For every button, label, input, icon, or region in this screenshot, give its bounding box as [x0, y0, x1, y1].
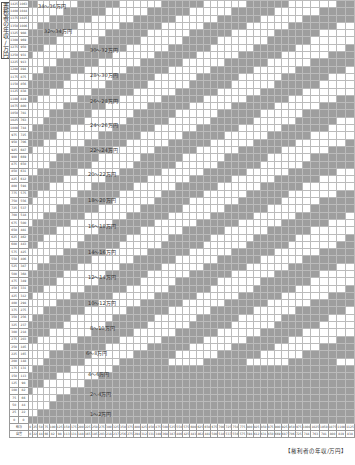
grid-cell: [267, 205, 274, 212]
grid-cell: [246, 183, 253, 190]
grid-cell: [70, 161, 77, 168]
grid-cell: [232, 88, 239, 95]
grid-cell: [337, 241, 346, 248]
grid-cell: [148, 154, 155, 161]
grid-cell: [311, 139, 320, 146]
grid-cell: [169, 336, 176, 343]
grid-cell: [91, 205, 98, 212]
grid-cell: [204, 336, 211, 343]
grid-cell: [246, 300, 253, 307]
grid-cell: [190, 88, 197, 95]
grid-cell: [126, 59, 133, 66]
grid-cell: [204, 322, 211, 329]
grid-cell: [126, 190, 133, 197]
grid-cell: [320, 227, 329, 234]
grid-cell: [56, 314, 63, 321]
grid-cell: [141, 37, 148, 44]
grid-cell: [197, 249, 204, 256]
x-tick: 800: [246, 424, 253, 431]
grid-cell: [218, 117, 225, 124]
grid-cell: [155, 358, 162, 365]
grid-cell: [70, 322, 77, 329]
grid-cell: [225, 205, 232, 212]
grid-cell: [119, 241, 126, 248]
grid-cell: [176, 190, 183, 197]
grid-cell: [295, 358, 302, 365]
grid-cell: [134, 256, 141, 263]
grid-cell: [176, 176, 183, 183]
grid-cell: [176, 307, 183, 314]
x-tick: 925: [281, 424, 288, 431]
grid-cell: [126, 168, 133, 175]
grid-cell: [320, 103, 329, 110]
grid-cell: [211, 256, 218, 263]
grid-cell: [260, 161, 267, 168]
grid-cell: [126, 154, 133, 161]
grid-cell: [267, 409, 274, 416]
y-tick-self: 44: [19, 402, 28, 409]
grid-cell: [126, 22, 133, 29]
grid-cell: [218, 88, 225, 95]
grid-cell: [232, 205, 239, 212]
grid-cell: [260, 125, 267, 132]
grid-cell: [155, 52, 162, 59]
grid-cell: [169, 373, 176, 380]
grid-cell: [126, 95, 133, 102]
grid-cell: [302, 139, 311, 146]
grid-cell: [155, 110, 162, 117]
grid-cell: [320, 168, 329, 175]
grid-cell: [337, 227, 346, 234]
grid-cell: [197, 176, 204, 183]
grid-cell: [148, 322, 155, 329]
grid-cell: [225, 358, 232, 365]
grid-cell: [225, 343, 232, 350]
grid-cell: [49, 314, 56, 321]
grid-cell: [63, 227, 70, 234]
grid-cell: [232, 168, 239, 175]
grid-cell: [155, 395, 162, 402]
grid-cell: [49, 73, 56, 80]
grid-cell: [274, 81, 281, 88]
y-tick-self: 819: [19, 95, 28, 102]
grid-cell: [84, 1, 91, 8]
grid-cell: [345, 8, 354, 15]
grid-cell: [70, 358, 77, 365]
grid-cell: [225, 176, 232, 183]
grid-cell: [246, 307, 253, 314]
grid-cell: [162, 198, 169, 205]
grid-cell: [176, 314, 183, 321]
grid-cell: [190, 95, 197, 102]
grid-cell: [134, 139, 141, 146]
grid-cell: [337, 322, 346, 329]
grid-cell: [274, 73, 281, 80]
grid-cell: [274, 358, 281, 365]
grid-cell: [345, 365, 354, 372]
grid-cell: [134, 336, 141, 343]
grid-cell: [337, 336, 346, 343]
grid-cell: [246, 8, 253, 15]
grid-cell: [169, 343, 176, 350]
grid-cell: [190, 30, 197, 37]
grid-cell: [260, 146, 267, 153]
grid-cell: [155, 351, 162, 358]
grid-cell: [105, 161, 112, 168]
grid-cell: [239, 300, 246, 307]
grid-cell: [267, 285, 274, 292]
grid-cell: [162, 212, 169, 219]
x-tick: 1075: [328, 424, 337, 431]
grid-cell: [218, 241, 225, 248]
x-tick: 763: [311, 431, 320, 438]
grid-cell: [155, 117, 162, 124]
grid-cell: [105, 59, 112, 66]
grid-cell: [155, 190, 162, 197]
grid-cell: [148, 22, 155, 29]
band-label: 32〜34万円: [44, 27, 72, 34]
grid-cell: [56, 205, 63, 212]
grid-cell: [155, 198, 162, 205]
grid-cell: [274, 249, 281, 256]
grid-cell: [311, 103, 320, 110]
grid-cell: [176, 256, 183, 263]
grid-cell: [119, 395, 126, 402]
grid-cell: [148, 146, 155, 153]
grid-cell: [218, 154, 225, 161]
